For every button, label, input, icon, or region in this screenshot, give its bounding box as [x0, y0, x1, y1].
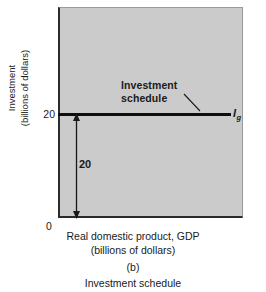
height-measure-label: 20 [79, 159, 91, 170]
curve-label-subscript: g [237, 113, 242, 122]
y-axis-title-line1: Investment [5, 28, 18, 148]
curve-label-symbol: I [233, 107, 236, 119]
y-axis-tick-20: 20 [41, 109, 55, 120]
schedule-callout-leader-line [184, 94, 204, 114]
x-axis-title-line2: (billions of dollars) [0, 243, 266, 257]
curve-label-ig: Ig [233, 108, 241, 119]
y-axis-title: Investment (billions of dollars) [5, 28, 33, 148]
x-axis-title: Real domestic product, GDP (billions of … [0, 229, 266, 257]
schedule-callout-line1: Investment [121, 79, 177, 91]
figure-caption-title: Investment schedule [0, 275, 266, 291]
schedule-callout-line2: schedule [121, 92, 167, 104]
y-axis-title-line2: (billions of dollars) [18, 28, 31, 148]
x-axis-title-line1: Real domestic product, GDP [0, 229, 266, 243]
figure-caption: (b) Investment schedule [0, 259, 266, 291]
figure-panel-label: (b) [0, 259, 266, 275]
